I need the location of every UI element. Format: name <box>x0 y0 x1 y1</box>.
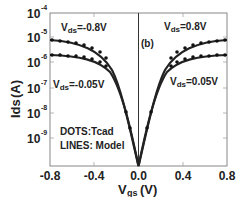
svg-text:-9: -9 <box>41 129 47 136</box>
svg-text:(A): (A) <box>8 80 23 98</box>
svg-text:Ids: Ids <box>8 99 23 118</box>
chart: 10-4 10-5 10-6 10-7 10-8 10-9 -0.8 -0.4 … <box>0 0 246 197</box>
svg-text:Vds=0.05V: Vds=0.05V <box>170 76 218 89</box>
svg-text:0.4: 0.4 <box>175 169 192 183</box>
y-axis-label: Ids (A) <box>8 80 23 118</box>
svg-text:-6: -6 <box>41 53 47 60</box>
svg-text:-0.8: -0.8 <box>40 169 61 183</box>
svg-text:10: 10 <box>27 56 41 70</box>
svg-text:0.0: 0.0 <box>130 169 147 183</box>
svg-text:Vds=0.8V: Vds=0.8V <box>164 21 207 34</box>
x-tick-labels: -0.8 -0.4 0.0 0.4 0.8 <box>40 169 236 183</box>
x-axis-label: V gs (V) <box>118 182 157 197</box>
svg-text:-7: -7 <box>41 79 47 86</box>
svg-text:-5: -5 <box>41 28 47 35</box>
svg-text:(V): (V) <box>140 182 157 197</box>
dots-legend: DOTS:Tcad <box>60 126 114 137</box>
svg-text:10: 10 <box>27 132 41 146</box>
svg-text:gs: gs <box>127 188 138 197</box>
panel-label: (b) <box>141 38 154 49</box>
svg-text:-0.4: -0.4 <box>84 169 105 183</box>
svg-text:Vds=-0.8V: Vds=-0.8V <box>61 22 107 35</box>
svg-text:0.8: 0.8 <box>219 169 236 183</box>
svg-text:10: 10 <box>27 31 41 45</box>
svg-text:Vds=-0.05V: Vds=-0.05V <box>53 79 105 92</box>
svg-text:10: 10 <box>27 7 41 21</box>
y-tick-labels: 10-4 10-5 10-6 10-7 10-8 10-9 <box>27 4 47 146</box>
svg-text:-4: -4 <box>41 4 47 11</box>
svg-text:-8: -8 <box>41 104 47 111</box>
svg-text:V: V <box>118 182 127 197</box>
lines-legend: LINES: Model <box>60 140 125 151</box>
svg-text:10: 10 <box>27 107 41 121</box>
svg-text:10: 10 <box>27 82 41 96</box>
